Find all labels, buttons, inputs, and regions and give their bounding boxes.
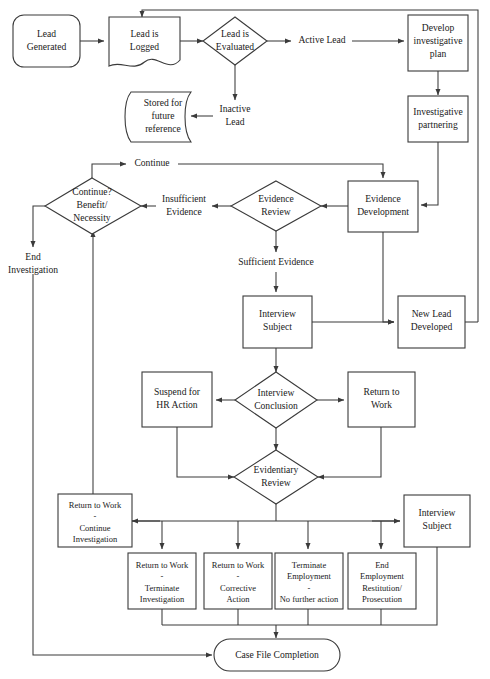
sufficient-evidence-label: Sufficient Evidence	[238, 256, 314, 267]
lead-is-logged-label-2: Logged	[130, 41, 160, 52]
rtw-continue-label-3: Continue	[79, 523, 110, 533]
edge-returntowork-to-evidentiary	[318, 427, 381, 477]
node-new-lead-developed[interactable]: New Lead Developed	[398, 296, 465, 348]
case-file-completion-label: Case File Completion	[235, 649, 319, 660]
lead-is-evaluated-label-1: Lead is	[221, 28, 249, 39]
node-stored-for-future-reference[interactable]: Stored for future reference	[125, 92, 191, 142]
interview-subject-upper-label-1: Interview	[259, 308, 296, 319]
end-investigation-label-1: End	[25, 251, 41, 262]
flowchart-canvas: Lead Generated Lead is Logged Lead is Ev…	[0, 0, 490, 679]
return-to-work-label-2: Work	[371, 399, 392, 410]
lead-is-logged-label-1: Lead is	[131, 28, 159, 39]
return-to-work-label-1: Return to	[364, 386, 400, 397]
continue-benefit-label-3: Necessity	[73, 212, 111, 223]
rtw-continue-label-1: Return to Work	[69, 500, 122, 510]
node-end-employment-restitution-prosecution[interactable]: End Employment Restitution/ Prosecution	[348, 553, 416, 609]
end-employment-label-2: Employment	[360, 571, 405, 581]
stored-label-2: future	[152, 110, 175, 121]
edge-partnering-to-evidencedev	[421, 141, 438, 205]
terminate-employment-label-4: No further action	[280, 594, 339, 604]
interview-conclusion-label-2: Conclusion	[254, 400, 298, 411]
node-investigative-partnering[interactable]: Investigative partnering	[408, 96, 468, 142]
node-inactive-lead: Inactive Lead	[220, 103, 251, 127]
terminate-employment-label-3: -	[308, 583, 311, 593]
node-case-file-completion[interactable]: Case File Completion	[214, 639, 340, 671]
evidence-development-label-1: Evidence	[365, 193, 401, 204]
rtw-continue-label-2: -	[94, 511, 97, 521]
node-develop-investigative-plan[interactable]: Develop investigative plan	[408, 15, 468, 71]
node-suspend-for-hr-action[interactable]: Suspend for HR Action	[142, 372, 212, 427]
node-end-investigation: End Investigation	[8, 251, 58, 275]
edge-suspendhr-to-evidentiary	[177, 427, 234, 477]
develop-plan-label-3: plan	[430, 48, 447, 59]
node-lead-is-evaluated[interactable]: Lead is Evaluated	[203, 17, 267, 65]
suspend-hr-label-2: HR Action	[156, 399, 198, 410]
evidence-review-label-2: Review	[261, 206, 290, 217]
node-interview-subject-lower[interactable]: Interview Subject	[404, 495, 470, 547]
node-return-to-work[interactable]: Return to Work	[348, 372, 415, 427]
edge-continue-bus-to-evidencedev	[178, 164, 383, 178]
node-continue-benefit-necessity[interactable]: Continue? Benefit/ Necessity	[45, 178, 141, 234]
evidence-development-label-2: Development	[357, 206, 409, 217]
node-lead-generated[interactable]: Lead Generated	[13, 15, 80, 67]
node-evidentiary-review[interactable]: Evidentiary Review	[234, 450, 318, 504]
node-return-to-work-terminate-investigation[interactable]: Return to Work - Terminate Investigation	[128, 553, 196, 609]
node-lead-is-logged[interactable]: Lead is Logged	[109, 17, 180, 66]
rtw-terminate-label-1: Return to Work	[136, 560, 189, 570]
investigative-partnering-label-2: partnering	[418, 119, 458, 130]
stored-label-3: reference	[145, 123, 181, 134]
interview-subject-upper-label-2: Subject	[263, 321, 292, 332]
edge-continue-to-evidencedev	[92, 164, 126, 178]
node-sufficient-evidence: Sufficient Evidence	[238, 256, 314, 267]
end-employment-label-3: Restitution/	[362, 583, 402, 593]
develop-plan-label-2: investigative	[413, 35, 462, 46]
rtw-continue-label-4: Investigation	[73, 534, 118, 544]
rtw-corrective-label-1: Return to Work	[212, 560, 265, 570]
node-terminate-employment[interactable]: Terminate Employment - No further action	[275, 553, 343, 609]
evidentiary-review-label-1: Evidentiary	[254, 464, 299, 475]
insufficient-evidence-label-2: Evidence	[166, 206, 202, 217]
continue-benefit-label-1: Continue?	[72, 186, 111, 197]
continue-benefit-label-2: Benefit/	[77, 199, 108, 210]
end-investigation-label-2: Investigation	[8, 264, 58, 275]
insufficient-evidence-label-1: Insufficient	[162, 193, 206, 204]
evidentiary-review-label-2: Review	[261, 477, 290, 488]
rtw-terminate-label-2: -	[161, 571, 164, 581]
end-employment-label-1: End	[375, 560, 389, 570]
lead-generated-label-1: Lead	[37, 28, 56, 39]
node-interview-subject-upper[interactable]: Interview Subject	[243, 296, 312, 348]
edge-continue-to-endinvestigation	[33, 206, 45, 247]
investigative-partnering-label-1: Investigative	[413, 106, 463, 117]
new-lead-developed-label-2: Developed	[411, 321, 453, 332]
continue-label: Continue	[134, 157, 169, 168]
stored-label-1: Stored for	[144, 97, 183, 108]
evidence-review-label-1: Evidence	[258, 193, 294, 204]
lead-generated-label-2: Generated	[27, 41, 67, 52]
rtw-corrective-label-2: -	[237, 571, 240, 581]
rtw-terminate-label-4: Investigation	[140, 594, 185, 604]
interview-subject-lower-label-2: Subject	[423, 520, 452, 531]
node-insufficient-evidence: Insufficient Evidence	[162, 193, 206, 217]
edge-evidencedev-to-newlead	[383, 232, 394, 322]
rtw-terminate-label-3: Terminate	[145, 583, 180, 593]
inactive-lead-label-1: Inactive	[220, 103, 251, 114]
flowchart-svg: Lead Generated Lead is Logged Lead is Ev…	[0, 0, 490, 679]
terminate-employment-label-2: Employment	[287, 571, 332, 581]
node-continue-label: Continue	[134, 157, 169, 168]
inactive-lead-label-2: Lead	[225, 116, 244, 127]
node-evidence-review[interactable]: Evidence Review	[231, 181, 321, 231]
rtw-corrective-label-4: Action	[226, 594, 250, 604]
interview-conclusion-label-1: Interview	[258, 387, 295, 398]
new-lead-developed-label-1: New Lead	[412, 308, 452, 319]
node-return-to-work-continue-investigation[interactable]: Return to Work - Continue Investigation	[58, 494, 132, 547]
suspend-hr-label-1: Suspend for	[154, 386, 201, 397]
node-evidence-development[interactable]: Evidence Development	[348, 181, 418, 232]
lead-is-evaluated-label-2: Evaluated	[216, 41, 255, 52]
node-active-lead: Active Lead	[298, 34, 345, 45]
active-lead-label: Active Lead	[298, 34, 345, 45]
end-employment-label-4: Prosecution	[362, 594, 403, 604]
node-return-to-work-corrective-action[interactable]: Return to Work - Corrective Action	[204, 553, 272, 609]
node-interview-conclusion[interactable]: Interview Conclusion	[235, 372, 317, 428]
rtw-corrective-label-3: Corrective	[220, 583, 256, 593]
develop-plan-label-1: Develop	[422, 22, 455, 33]
